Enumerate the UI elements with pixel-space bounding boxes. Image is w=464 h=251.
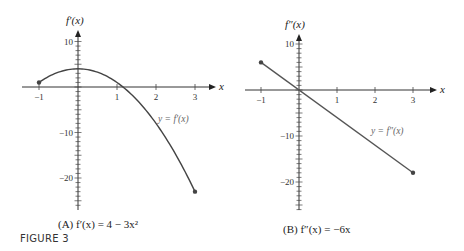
y-axis-arrow-icon <box>75 30 81 37</box>
y-axis-title: f′(x) <box>66 14 84 27</box>
y-axis-title: f″(x) <box>285 18 305 31</box>
y-tick-label: −10 <box>59 128 74 138</box>
endpoint-dot <box>193 189 197 193</box>
x-tick-label: 2 <box>373 95 378 105</box>
x-tick-label: −1 <box>34 92 44 102</box>
x-tick-label: 1 <box>335 95 340 105</box>
endpoint-dot <box>37 80 41 84</box>
y-tick-label: −20 <box>280 177 295 187</box>
x-axis-label: x <box>439 83 445 95</box>
endpoint-dot <box>411 171 415 175</box>
y-tick-label: 10 <box>285 39 295 49</box>
x-tick-label: −1 <box>256 95 266 105</box>
x-tick-label: 1 <box>115 92 120 102</box>
y-tick-label: −20 <box>59 173 74 183</box>
panel-caption: (A) f′(x) = 4 − 3x² <box>58 218 139 231</box>
y-tick-label: −10 <box>280 131 295 141</box>
curve-line <box>261 62 413 172</box>
y-axis-arrow-icon <box>296 34 302 41</box>
x-tick-label: 3 <box>193 92 198 102</box>
x-axis-arrow-icon <box>209 84 216 90</box>
figure-canvas: xf′(x)10−10−20−1123y = f′(x)(A) f′(x) = … <box>0 0 464 251</box>
curve-label: y = f″(x) <box>370 126 404 137</box>
x-tick-label: 3 <box>411 95 416 105</box>
panel-a: xf′(x)10−10−20−1123y = f′(x)(A) f′(x) = … <box>22 14 224 231</box>
curve-label: y = f′(x) <box>157 114 189 125</box>
endpoint-dot <box>259 60 263 64</box>
x-tick-label: 2 <box>154 92 159 102</box>
figure-label: FIGURE 3 <box>20 233 69 244</box>
panel-caption: (B) f″(x) = −6x <box>283 223 351 236</box>
y-tick-label: 10 <box>64 37 74 47</box>
x-axis-arrow-icon <box>430 87 437 93</box>
x-axis-label: x <box>218 80 224 92</box>
panel-b: xf″(x)10−10−20−1123y = f″(x)(B) f″(x) = … <box>245 18 445 236</box>
